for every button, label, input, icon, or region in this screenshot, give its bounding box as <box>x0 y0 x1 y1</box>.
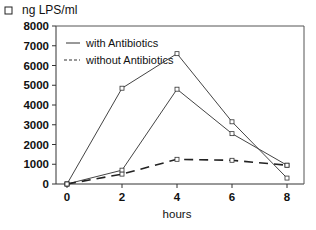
data-point-marker <box>175 157 179 161</box>
y-tick-label: 8000 <box>23 20 49 32</box>
axes <box>56 26 304 184</box>
x-tick-label: 2 <box>119 191 125 203</box>
chart-title: ng LPS/ml <box>22 3 77 17</box>
data-point-marker <box>175 87 179 91</box>
x-axis-label: hours <box>163 208 192 220</box>
legend-label-with-antibiotics: with Antibiotics <box>85 37 159 49</box>
title-square-icon <box>5 7 12 14</box>
data-point-marker <box>120 172 124 176</box>
y-tick-label: 0 <box>43 178 49 190</box>
chart-container: ng LPS/ml0100020003000400050006000700080… <box>0 0 316 230</box>
data-point-marker <box>285 176 289 180</box>
x-tick-label: 8 <box>284 191 291 203</box>
data-point-marker <box>65 182 69 186</box>
data-point-marker <box>175 52 179 56</box>
data-point-marker <box>120 86 124 90</box>
y-tick-label: 5000 <box>23 79 49 91</box>
y-tick-label: 4000 <box>23 99 49 111</box>
data-point-marker <box>230 120 234 124</box>
series-line-2 <box>67 89 287 184</box>
x-tick-label: 6 <box>229 191 235 203</box>
y-tick-label: 3000 <box>23 119 49 131</box>
y-tick-label: 1000 <box>23 158 49 170</box>
series-line-1 <box>67 54 287 184</box>
line-chart: ng LPS/ml0100020003000400050006000700080… <box>0 0 316 230</box>
data-point-marker <box>230 132 234 136</box>
y-tick-label: 7000 <box>23 40 49 52</box>
series-line-3 <box>67 159 287 184</box>
data-point-marker <box>230 158 234 162</box>
data-point-marker <box>120 168 124 172</box>
y-tick-label: 6000 <box>23 60 49 72</box>
x-tick-label: 0 <box>64 191 70 203</box>
y-tick-label: 2000 <box>23 139 49 151</box>
data-point-marker <box>285 163 289 167</box>
x-tick-label: 4 <box>174 191 181 203</box>
